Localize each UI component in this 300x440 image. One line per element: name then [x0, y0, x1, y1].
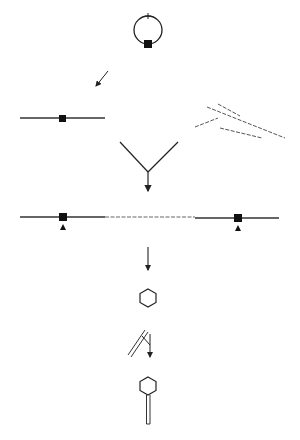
joined-molecule	[20, 213, 279, 231]
up-arrowhead-icon	[235, 225, 241, 231]
rod-edge	[131, 332, 148, 357]
fragment-line	[195, 118, 218, 127]
convergence	[120, 142, 178, 191]
fragment-line	[220, 128, 262, 138]
rod-and-merge	[128, 330, 150, 357]
hexagon-with-tail	[140, 377, 156, 424]
marker-square-right	[234, 214, 242, 222]
fragment-line	[218, 104, 240, 116]
circular-molecule	[134, 13, 162, 48]
fragment-line	[207, 107, 285, 138]
merge-branch	[142, 336, 150, 345]
diagram-canvas	[0, 0, 300, 440]
linear-molecule	[20, 115, 105, 122]
marker-square-left	[59, 213, 67, 221]
up-arrowhead-icon	[60, 224, 66, 230]
marker-square	[59, 115, 66, 122]
diagonal-arrow-icon	[96, 71, 108, 86]
rod-edge	[128, 330, 145, 355]
circle-shape	[134, 16, 162, 44]
left-arm	[120, 142, 148, 172]
hexagon-icon	[140, 289, 156, 307]
hexagon-icon	[140, 377, 156, 395]
marker-square	[144, 40, 152, 48]
right-arm	[148, 142, 178, 172]
fragments	[195, 104, 285, 138]
